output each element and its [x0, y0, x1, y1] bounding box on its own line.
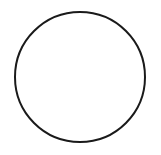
- circle-outline-icon: [15, 12, 145, 142]
- circle-drawing: [0, 0, 161, 155]
- canvas: [0, 0, 161, 155]
